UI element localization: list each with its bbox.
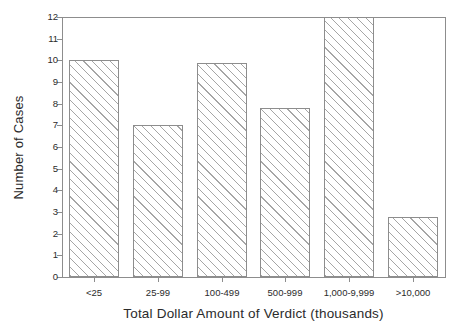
y-tick-label: 12 <box>47 11 58 22</box>
y-tick-label: 0 <box>53 271 58 282</box>
x-tick-label: <25 <box>86 287 102 299</box>
y-tick-label: 6 <box>53 141 58 152</box>
y-tick-label: 10 <box>47 54 58 65</box>
histogram-figure: Number of Cases 0123456789101112 <2525-9… <box>0 0 453 330</box>
bar <box>388 217 438 277</box>
x-tick-label: 500-999 <box>268 287 303 299</box>
x-tick-mark <box>222 277 223 282</box>
bar <box>69 60 119 277</box>
y-tick-label: 11 <box>48 33 58 44</box>
plot-top-border <box>62 17 446 18</box>
x-axis-title: Total Dollar Amount of Verdict (thousand… <box>62 306 445 321</box>
bar <box>133 125 183 277</box>
plot-area: 0123456789101112 <2525-99100-499500-9991… <box>62 17 445 277</box>
x-tick-label: >10,000 <box>396 287 431 299</box>
y-tick-label: 1 <box>53 249 58 260</box>
page-title <box>150 0 340 3</box>
bar <box>324 17 374 277</box>
bar <box>260 108 310 277</box>
x-tick-mark <box>158 277 159 282</box>
x-tick-mark <box>94 277 95 282</box>
x-tick-label: 1,000-9,999 <box>324 287 375 299</box>
x-tick-label: 25-99 <box>146 287 170 299</box>
x-tick-mark <box>413 277 414 282</box>
y-tick-label: 8 <box>53 98 58 109</box>
y-tick-label: 5 <box>53 163 58 174</box>
y-tick-label: 7 <box>53 119 58 130</box>
y-axis-line <box>62 17 63 278</box>
x-tick-mark <box>349 277 350 282</box>
y-axis-title: Number of Cases <box>11 78 26 218</box>
plot-right-border <box>445 17 446 278</box>
x-tick-label: 100-499 <box>205 287 240 299</box>
x-axis-line <box>62 277 446 278</box>
y-tick-label: 4 <box>53 184 58 195</box>
y-tick-label: 9 <box>53 76 58 87</box>
y-tick-label: 2 <box>53 228 58 239</box>
x-tick-mark <box>285 277 286 282</box>
y-tick-label: 3 <box>53 206 58 217</box>
bar <box>197 63 247 278</box>
